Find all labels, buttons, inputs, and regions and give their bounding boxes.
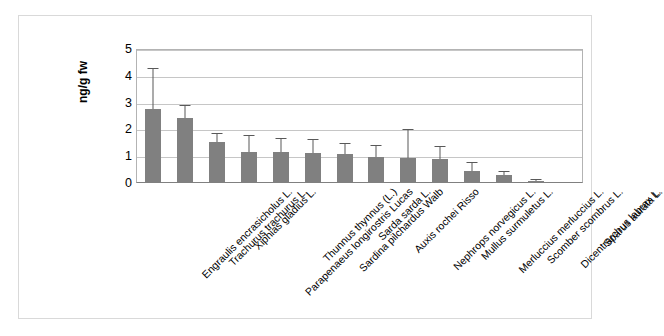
bar-group[interactable]	[552, 50, 584, 182]
error-bar-line	[504, 172, 505, 175]
bar[interactable]	[496, 175, 512, 182]
bar[interactable]	[177, 118, 193, 182]
bar[interactable]	[464, 171, 480, 182]
error-bar-cap	[243, 135, 254, 136]
bar[interactable]	[337, 154, 353, 182]
x-tick-label: Engraulis encrasicholus L.	[200, 186, 294, 280]
error-bar-line	[536, 180, 537, 181]
error-bar-line	[248, 136, 249, 152]
y-tick-label: 1	[104, 150, 132, 162]
error-bar-cap	[147, 68, 158, 69]
error-bar-cap	[339, 143, 350, 144]
bar-group[interactable]	[297, 50, 329, 182]
bar[interactable]	[400, 158, 416, 182]
bar-group[interactable]	[520, 50, 552, 182]
bar-group[interactable]	[424, 50, 456, 182]
bar-group[interactable]	[329, 50, 361, 182]
y-tick-label: 4	[104, 70, 132, 82]
bar[interactable]	[241, 152, 257, 182]
bar-group[interactable]	[233, 50, 265, 182]
error-bar-cap	[179, 105, 190, 106]
bar[interactable]	[368, 157, 384, 182]
bar[interactable]	[305, 153, 321, 182]
y-tick-label: 0	[104, 177, 132, 189]
error-bar-line	[312, 140, 313, 153]
error-bar-cap	[403, 129, 414, 130]
y-axis-title: ng/g fw	[73, 32, 93, 132]
error-bar-cap	[211, 133, 222, 134]
error-bar-line	[344, 144, 345, 154]
error-bar-cap	[531, 179, 542, 180]
bar-group[interactable]	[137, 50, 169, 182]
y-tick-label: 3	[104, 97, 132, 109]
error-bar-cap	[307, 139, 318, 140]
error-bar-cap	[467, 162, 478, 163]
error-bar-line	[280, 139, 281, 152]
chart-frame: ng/g fw 012345 Engraulis encrasicholus L…	[18, 15, 592, 319]
bar[interactable]	[145, 109, 161, 182]
error-bar-line	[440, 147, 441, 159]
bar-group[interactable]	[361, 50, 393, 182]
error-bar-line	[376, 146, 377, 158]
error-bar-cap	[499, 171, 510, 172]
error-bar-line	[216, 134, 217, 142]
bar[interactable]	[432, 159, 448, 182]
y-axis-tick-labels: 012345	[102, 49, 132, 183]
plot-area	[136, 49, 583, 183]
bar-group[interactable]	[488, 50, 520, 182]
x-tick-label: Parapenaeus longirostris Lucas	[303, 186, 415, 298]
error-bar-cap	[371, 145, 382, 146]
bar[interactable]	[528, 181, 544, 182]
bar-group[interactable]	[392, 50, 424, 182]
error-bar-line	[408, 130, 409, 159]
error-bar-line	[184, 106, 185, 118]
y-tick-label: 5	[104, 43, 132, 55]
bar-group[interactable]	[456, 50, 488, 182]
error-bar-cap	[435, 146, 446, 147]
error-bar-cap	[275, 138, 286, 139]
bar-group[interactable]	[265, 50, 297, 182]
error-bar-line	[472, 163, 473, 171]
y-tick-label: 2	[104, 123, 132, 135]
bar-group[interactable]	[201, 50, 233, 182]
error-bar-line	[152, 69, 153, 109]
bar[interactable]	[273, 152, 289, 182]
bar-group[interactable]	[169, 50, 201, 182]
x-axis-tick-labels: Engraulis encrasicholus L.Trachurus trac…	[136, 184, 583, 324]
bar[interactable]	[209, 142, 225, 182]
